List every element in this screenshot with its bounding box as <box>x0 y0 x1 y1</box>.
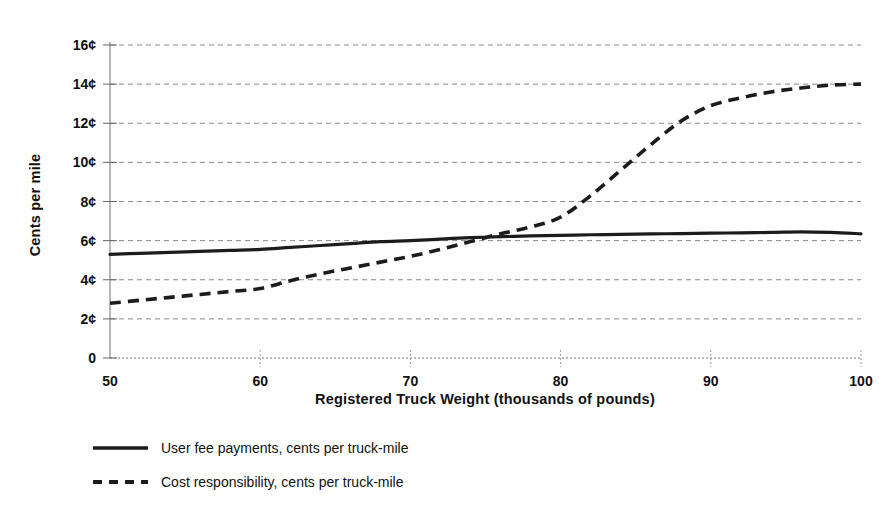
chart-background <box>0 0 882 518</box>
y-tick-label-4: 4¢ <box>80 272 96 288</box>
y-tick-label-12: 12¢ <box>73 115 97 131</box>
chart-figure: 02¢4¢6¢8¢10¢12¢14¢16¢ 5060708090100 Regi… <box>0 0 882 518</box>
y-tick-label-0: 0 <box>88 350 96 366</box>
x-tick-label-90: 90 <box>703 373 719 389</box>
line-chart-svg: 02¢4¢6¢8¢10¢12¢14¢16¢ 5060708090100 Regi… <box>0 0 882 518</box>
y-tick-label-6: 6¢ <box>80 233 96 249</box>
x-tick-label-70: 70 <box>403 373 419 389</box>
y-tick-label-10: 10¢ <box>73 154 97 170</box>
x-tick-label-50: 50 <box>102 373 118 389</box>
x-tick-label-80: 80 <box>553 373 569 389</box>
y-axis-title: Cents per mile <box>27 154 43 257</box>
x-axis-title: Registered Truck Weight (thousands of po… <box>315 391 655 407</box>
legend-label-cost-responsibility: Cost responsibility, cents per truck-mil… <box>161 474 404 490</box>
y-tick-label-8: 8¢ <box>80 194 96 210</box>
y-tick-label-2: 2¢ <box>80 311 96 327</box>
x-tick-label-60: 60 <box>252 373 268 389</box>
y-tick-label-14: 14¢ <box>73 76 97 92</box>
y-tick-label-16: 16¢ <box>73 37 97 53</box>
x-tick-label-100: 100 <box>849 373 873 389</box>
legend-label-user-fee-payments: User fee payments, cents per truck-mile <box>161 440 409 456</box>
